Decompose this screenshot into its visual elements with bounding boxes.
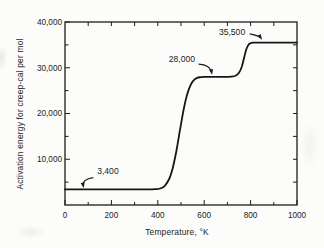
x-tick-label: 200	[105, 211, 119, 220]
annotation-arrow	[83, 178, 93, 186]
plot-frame	[65, 22, 297, 205]
annotation-arrowhead	[257, 34, 262, 40]
x-tick-label: 1000	[288, 211, 307, 220]
x-axis-title: Temperature, °K	[145, 227, 209, 237]
y-tick-label: 10,000	[37, 155, 62, 164]
annotation-arrowhead	[81, 182, 85, 188]
x-tick-label: 0	[63, 211, 68, 220]
y-tick-label: 30,000	[37, 64, 62, 73]
plot-area: 0200400600800100010,00020,00030,00040,00…	[37, 18, 307, 220]
annotation-label: 35,500	[219, 27, 246, 37]
x-tick-label: 400	[151, 211, 165, 220]
annotation-arrow	[199, 64, 212, 72]
y-tick-label: 40,000	[37, 18, 62, 27]
creep-activation-energy-figure: 0200400600800100010,00020,00030,00040,00…	[0, 0, 324, 248]
x-tick-label: 800	[244, 211, 258, 220]
annotation-label: 3,400	[97, 166, 119, 176]
x-tick-label: 600	[197, 211, 211, 220]
annotation-label: 28,000	[169, 54, 196, 64]
creep-activation-energy-chart: 0200400600800100010,00020,00030,00040,00…	[0, 0, 324, 248]
y-tick-label: 20,000	[37, 109, 62, 118]
annotation-arrowhead	[209, 69, 213, 75]
y-axis-title: Activation energy for creep-cal per mol	[15, 38, 25, 189]
